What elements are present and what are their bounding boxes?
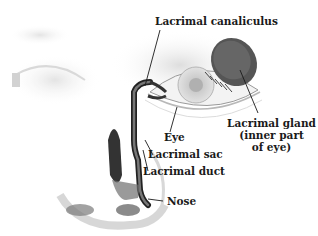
- nasal-cavity: [108, 129, 122, 183]
- label-lacrimal-gland-line3: of eye): [225, 141, 318, 153]
- label-lacrimal-sac: Lacrimal sac: [148, 148, 223, 160]
- label-eye: Eye: [164, 131, 185, 143]
- label-lacrimal-duct: Lacrimal duct: [143, 165, 225, 177]
- label-lacrimal-gland-line1: Lacrimal gland: [225, 117, 318, 129]
- left-eye-sketch: [10, 25, 100, 105]
- lacrimal-diagram: Lacrimal canaliculus Lacrimal gland (inn…: [0, 0, 318, 236]
- label-nose: Nose: [167, 195, 196, 207]
- label-lacrimal-gland-line2: (inner part: [225, 129, 318, 141]
- label-lacrimal-gland: Lacrimal gland (inner part of eye): [225, 117, 318, 153]
- label-lacrimal-canaliculus: Lacrimal canaliculus: [155, 15, 278, 27]
